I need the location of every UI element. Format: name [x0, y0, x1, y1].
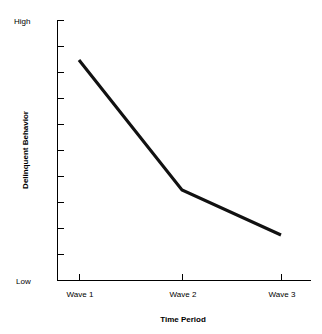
y-axis-title: Delinquent Behavior [21, 111, 30, 189]
data-series-line [79, 60, 281, 235]
y-axis-max-label: High [14, 17, 30, 26]
chart-container: High Low Delinquent Behavior Wave 1 Wave… [0, 0, 322, 334]
x-axis-ticks [80, 274, 282, 281]
y-axis-ticks [58, 21, 65, 255]
y-axis-min-label: Low [16, 277, 31, 286]
x-tick-label-wave-2: Wave 2 [170, 290, 197, 299]
x-axis-title: Time Period [160, 315, 206, 324]
x-tick-label-wave-3: Wave 3 [269, 290, 296, 299]
line-chart: High Low Delinquent Behavior Wave 1 Wave… [0, 0, 322, 334]
x-tick-label-wave-1: Wave 1 [67, 290, 94, 299]
